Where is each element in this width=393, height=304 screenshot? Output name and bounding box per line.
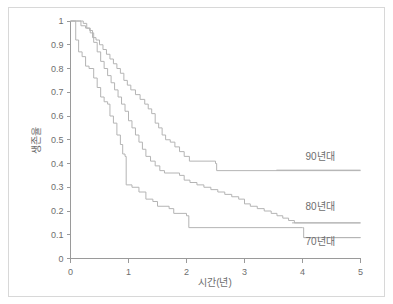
x-tick-label: 4 xyxy=(300,267,305,277)
series-curve-90년대 xyxy=(71,21,361,171)
y-tick-label: 0.1 xyxy=(51,230,64,240)
survival-chart: 00.10.20.30.40.50.60.70.80.91 012345 90년… xyxy=(0,0,393,304)
y-tick-label: 1 xyxy=(58,16,63,26)
y-tick-label: 0.3 xyxy=(51,182,64,192)
y-tick-label: 0.5 xyxy=(51,135,64,145)
x-tick-label: 3 xyxy=(242,267,247,277)
x-axis-title: 시간(년) xyxy=(198,277,232,288)
y-tick-label: 0.9 xyxy=(51,40,64,50)
x-tick-label: 2 xyxy=(184,267,189,277)
series-label-80년대: 80년대 xyxy=(305,201,334,212)
y-tick-label: 0.7 xyxy=(51,87,64,97)
series-curve-80년대 xyxy=(71,21,361,223)
y-axis-title: 생존율 xyxy=(31,127,42,154)
figure-container: 00.10.20.30.40.50.60.70.80.91 012345 90년… xyxy=(0,0,393,304)
series-labels: 90년대80년대70년대 xyxy=(276,151,360,248)
y-axis-ticks: 00.10.20.30.40.50.60.70.80.91 xyxy=(51,16,71,264)
y-tick-label: 0.2 xyxy=(51,206,64,216)
y-tick-label: 0.6 xyxy=(51,111,64,121)
y-tick-label: 0.8 xyxy=(51,64,64,74)
x-axis-ticks: 012345 xyxy=(68,259,363,277)
series-label-70년대: 70년대 xyxy=(305,236,334,247)
y-tick-label: 0 xyxy=(58,254,63,264)
y-tick-label: 0.4 xyxy=(51,159,64,169)
series-label-90년대: 90년대 xyxy=(305,151,334,162)
x-tick-label: 0 xyxy=(68,267,73,277)
x-tick-label: 1 xyxy=(126,267,131,277)
x-tick-label: 5 xyxy=(358,267,363,277)
